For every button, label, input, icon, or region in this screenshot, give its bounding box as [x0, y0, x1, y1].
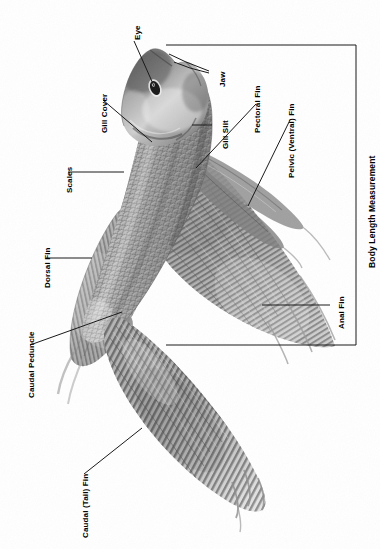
- label-pectoral-fin: Pectoral Fin: [254, 85, 262, 133]
- label-anal-fin: Anal Fin: [338, 296, 346, 329]
- label-gill-cover: Gill Cover: [101, 94, 109, 133]
- fish-anatomy-figure: Eye Jaw Gill Cover Gill Slit Scales Dors…: [0, 0, 380, 549]
- label-jaw: Jaw: [219, 71, 227, 87]
- label-scales: Scales: [66, 167, 74, 193]
- fish-photograph: [0, 0, 380, 549]
- label-caudal-fin: Caudal (Tail) Fin: [82, 474, 90, 538]
- label-eye: Eye: [134, 25, 142, 40]
- label-dorsal-fin: Dorsal Fin: [44, 247, 52, 288]
- label-gill-slit: Gill Slit: [222, 120, 230, 149]
- label-pelvic-fin: Pelvic (Ventral) Fin: [288, 103, 296, 178]
- label-caudal-peduncle: Caudal Peduncle: [28, 331, 36, 398]
- label-body-length-measurement: Body Length Measurement: [368, 155, 377, 268]
